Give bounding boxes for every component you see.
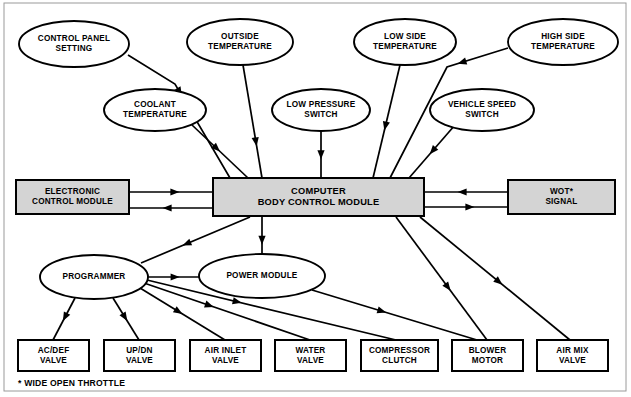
- diagram-canvas: CONTROL PANEL SETTINGOUTSIDE TEMPERATURE…: [0, 0, 631, 397]
- arrowhead: [171, 273, 180, 280]
- connector-ecm-to-cbcm: [129, 188, 213, 195]
- connector-coolant-temp-to-cbcm: [192, 125, 248, 178]
- connector-cbcm-to-wot: [424, 203, 508, 210]
- connector-programmer-to-ac-def: [53, 298, 75, 340]
- arrowhead: [465, 203, 474, 210]
- node-high-side-temperature[interactable]: [508, 19, 618, 65]
- node-computer-body-control-module[interactable]: [213, 178, 424, 216]
- connector-wot-to-cbcm: [424, 188, 508, 195]
- connector-low-pressure-to-cbcm: [317, 131, 324, 178]
- connector-power-module-to-blower: [312, 290, 477, 340]
- footnote-wide-open-throttle: * WIDE OPEN THROTTLE: [18, 378, 125, 388]
- node-water-valve[interactable]: [275, 340, 346, 371]
- node-coolant-temperature[interactable]: [104, 89, 206, 131]
- connector-outside-temp-to-cbcm: [243, 65, 262, 178]
- node-low-pressure-switch[interactable]: [272, 89, 370, 131]
- node-wot-signal[interactable]: [508, 180, 615, 214]
- node-outside-temperature[interactable]: [187, 19, 293, 65]
- diagram-svg: [0, 0, 631, 397]
- node-air-mix-valve[interactable]: [537, 340, 608, 371]
- connector-vehicle-speed-to-cbcm: [409, 125, 455, 178]
- arrowhead: [173, 306, 183, 314]
- arrowhead: [163, 204, 172, 211]
- arrowhead: [458, 188, 467, 195]
- arrowhead: [63, 311, 70, 321]
- node-control-panel-setting[interactable]: [19, 21, 129, 67]
- arrowhead: [120, 312, 128, 322]
- node-vehicle-speed-switch[interactable]: [430, 89, 534, 131]
- connector-low-side-temp-to-cbcm: [373, 65, 400, 178]
- connector-programmer-to-power-module: [148, 273, 199, 280]
- arrowhead: [317, 150, 324, 159]
- node-ac-def-valve[interactable]: [18, 340, 89, 371]
- node-programmer[interactable]: [40, 255, 148, 299]
- arrowhead: [377, 306, 387, 313]
- node-up-dn-valve[interactable]: [104, 340, 175, 371]
- node-air-inlet-valve[interactable]: [190, 340, 261, 371]
- arrowhead: [170, 188, 179, 195]
- node-electronic-control-module[interactable]: [16, 180, 129, 214]
- arrowhead: [252, 137, 259, 146]
- connector-cbcm-to-power-module: [258, 217, 265, 254]
- arrowhead: [442, 281, 450, 290]
- node-blower-motor[interactable]: [452, 340, 523, 371]
- node-compressor-clutch[interactable]: [361, 340, 438, 371]
- node-low-side-temperature[interactable]: [354, 19, 456, 65]
- arrowhead: [204, 301, 214, 308]
- arrowhead: [182, 239, 192, 246]
- connector-cbcm-to-ecm: [129, 204, 213, 211]
- arrowhead: [258, 236, 265, 245]
- connector-programmer-to-up-dn: [113, 298, 139, 340]
- node-power-module[interactable]: [199, 254, 325, 298]
- arrowhead: [458, 58, 468, 65]
